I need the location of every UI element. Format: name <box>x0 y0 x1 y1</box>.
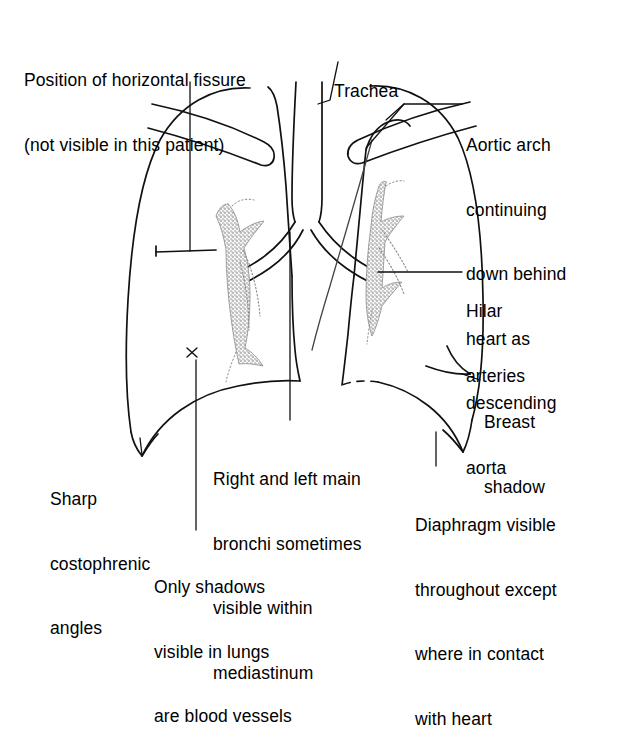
label-line: Trachea <box>334 81 398 103</box>
label-only-shadows-blood-vessels: Only shadows visible in lungs are blood … <box>154 534 292 729</box>
right-mediastinal-border <box>268 87 292 276</box>
label-sharp-costophrenic-angles: Sharp costophrenic angles <box>50 446 150 661</box>
label-line: where in contact <box>415 644 557 666</box>
right-hilar-vessels <box>216 199 264 382</box>
label-line: are blood vessels <box>154 706 292 728</box>
label-line: visible in lungs <box>154 642 292 664</box>
left-hilar-vessels <box>366 181 408 344</box>
label-trachea: Trachea <box>334 38 398 124</box>
label-diaphragm: Diaphragm visible throughout except wher… <box>415 472 557 729</box>
left-heart-border <box>342 276 354 385</box>
label-line: continuing <box>466 200 566 222</box>
aortic-arch <box>366 120 410 150</box>
label-line: Position of horizontal fissure <box>24 70 246 92</box>
left-main-bronchus-lower <box>311 230 372 283</box>
label-line: Only shadows <box>154 577 292 599</box>
label-line: costophrenic <box>50 554 150 576</box>
label-line: with heart <box>415 709 557 729</box>
label-line: Breast <box>484 412 545 434</box>
horizontal-fissure-marker <box>156 250 216 252</box>
label-line: (not visible in this patient) <box>24 135 246 157</box>
left-hemidiaphragm <box>378 382 463 452</box>
trachea-right-wall <box>292 82 296 222</box>
label-line: angles <box>50 618 150 640</box>
label-line: Diaphragm visible <box>415 515 557 537</box>
left-hemidiaphragm-obscured <box>342 381 378 385</box>
right-heart-border <box>292 276 300 381</box>
label-line: Sharp <box>50 489 150 511</box>
label-line: throughout except <box>415 580 557 602</box>
label-position-of-horizontal-fissure: Position of horizontal fissure (not visi… <box>24 27 246 178</box>
label-line: Aortic arch <box>466 135 566 157</box>
label-line: Right and left main <box>213 469 362 491</box>
label-line: Hilar <box>466 301 525 323</box>
vessel-marker-cross <box>187 348 197 357</box>
